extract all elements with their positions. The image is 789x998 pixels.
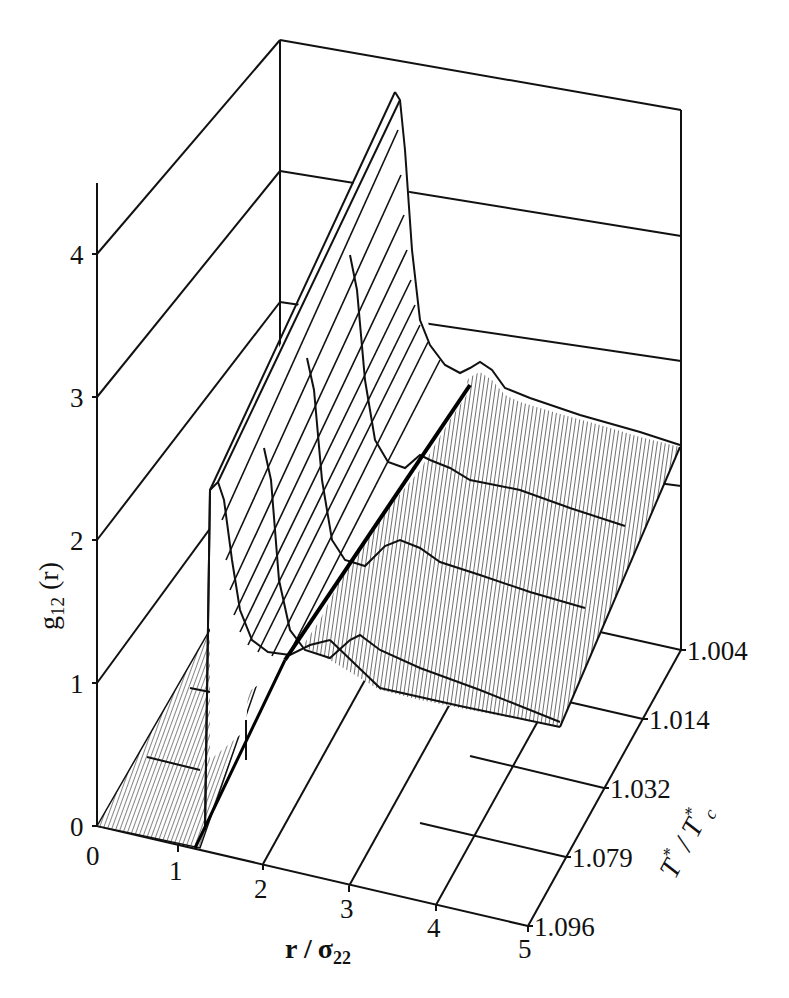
x-tick-5: 5	[518, 934, 532, 964]
y-tick-4: 4	[70, 240, 84, 270]
y-tick-0: 0	[70, 812, 84, 842]
depth-tick-1.079: 1.079	[572, 843, 633, 873]
x-axis-title: r /σ22	[285, 933, 351, 968]
surface-plot: 4 3 2 1 0 0 1 2 3 4 5 1.004 1.014 1.032 …	[0, 0, 789, 998]
depth-tick-1.004: 1.004	[687, 636, 748, 666]
y-tick-2: 2	[70, 526, 84, 556]
y-axis-title: g12 (r)	[33, 562, 68, 630]
x-tick-4: 4	[427, 913, 441, 943]
depth-tick-1.014: 1.014	[649, 705, 710, 735]
x-tick-0: 0	[86, 841, 100, 871]
y-tick-3: 3	[70, 383, 84, 413]
x-tick-2: 2	[254, 874, 268, 904]
depth-tick-1.032: 1.032	[610, 774, 671, 804]
y-tick-1: 1	[70, 669, 84, 699]
x-tick-3: 3	[340, 894, 354, 924]
x-tick-1: 1	[169, 856, 183, 886]
depth-tick-1.096: 1.096	[534, 912, 595, 942]
depth-axis-title: T* / T*c	[650, 797, 721, 885]
